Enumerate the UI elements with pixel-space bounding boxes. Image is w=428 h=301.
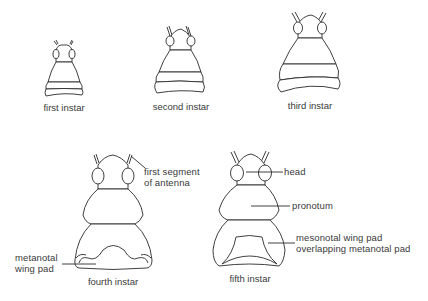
first-segment-leader [131,156,145,168]
label-first-segment-line1: first segment [144,166,200,177]
caption-fourth-instar: fourth instar [88,276,138,287]
fifth-instar-drawing [213,151,295,266]
label-metanotal-line2: wing pad [15,263,58,274]
third-instar-drawing [278,12,340,92]
label-mesonotal-line1: mesonotal wing pad [296,232,410,243]
caption-second-instar: second instar [153,101,210,112]
label-pronotum: pronotum [292,200,333,211]
instar-diagram [0,0,428,301]
label-head: head [284,166,306,177]
fourth-instar-drawing [75,154,152,270]
caption-fifth-instar: fifth instar [229,273,270,284]
label-first-segment-line2: of antenna [144,177,200,188]
label-metanotal-wing-pad: metanotal wing pad [15,252,58,274]
label-first-segment: first segment of antenna [144,166,200,188]
label-mesonotal-line2: overlapping metanotal pad [296,243,410,254]
label-metanotal-line1: metanotal [15,252,58,263]
caption-third-instar: third instar [288,100,332,111]
caption-first-instar: first instar [43,102,84,113]
first-instar-drawing [45,40,83,96]
second-instar-drawing [155,26,205,93]
label-mesonotal-wing-pad: mesonotal wing pad overlapping metanotal… [296,232,410,254]
